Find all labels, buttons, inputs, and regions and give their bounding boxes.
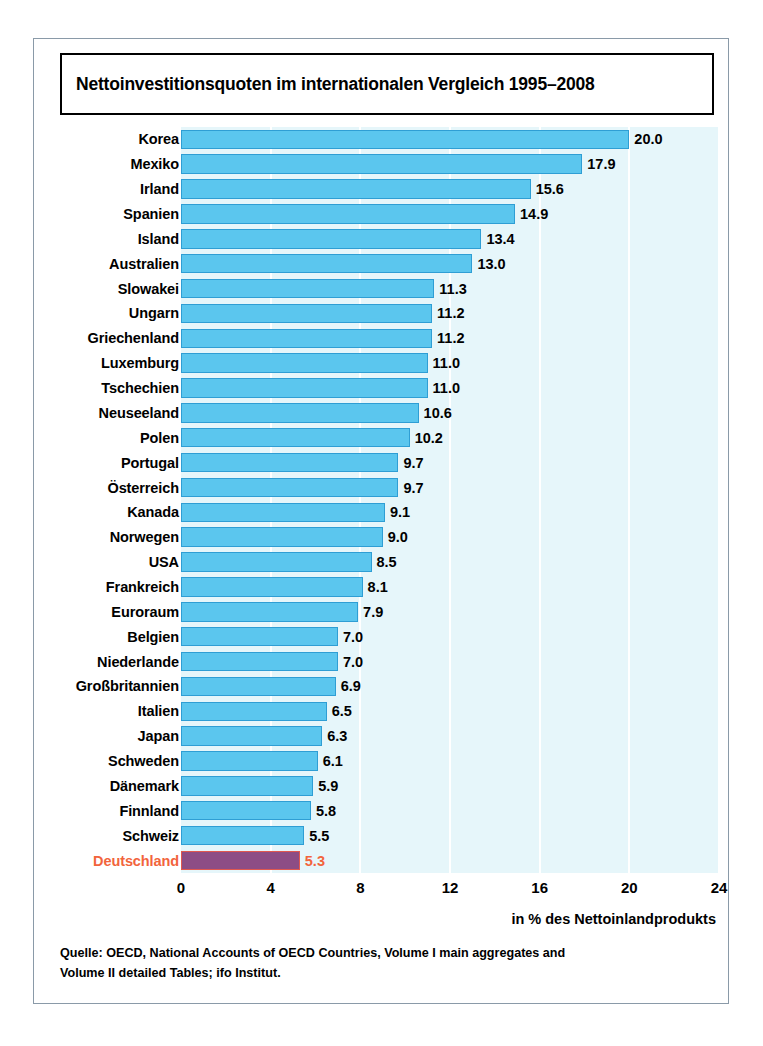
bar-row: Neuseeland10.6 (34, 401, 730, 426)
bar (181, 577, 363, 597)
bar-category-label: Spanien (123, 206, 179, 222)
bar-category-label: Irland (140, 181, 179, 197)
source-note: Quelle: OECD, National Accounts of OECD … (60, 944, 700, 983)
bar-category-label: Euroraum (111, 604, 179, 620)
bar-row: Dänemark5.9 (34, 774, 730, 799)
bar (181, 726, 322, 746)
bar-row: Kanada9.1 (34, 500, 730, 525)
bar-value-label: 9.7 (403, 480, 423, 496)
chart-region: Korea20.0Mexiko17.9Irland15.6Spanien14.9… (34, 127, 730, 917)
bar-category-label: Großbritannien (76, 678, 179, 694)
bar-value-label: 7.0 (343, 654, 363, 670)
bar-category-label: Mexiko (130, 156, 179, 172)
x-axis-tick-label: 20 (621, 879, 638, 896)
bar-category-label: Kanada (127, 504, 179, 520)
bar-value-label: 6.5 (332, 703, 352, 719)
bar-value-label: 11.2 (437, 330, 464, 346)
bar-value-label: 10.2 (415, 430, 443, 446)
bar-row: Großbritannien6.9 (34, 674, 730, 699)
bar-value-label: 5.5 (309, 828, 329, 844)
bar-rows: Korea20.0Mexiko17.9Irland15.6Spanien14.9… (34, 127, 730, 873)
bar-value-label: 17.9 (587, 156, 615, 172)
bar (181, 503, 385, 523)
bar-row: Luxemburg11.0 (34, 351, 730, 376)
bar-category-label: Italien (138, 703, 179, 719)
bar (181, 353, 428, 373)
x-axis-caption: in % des Nettoinlandprodukts (511, 911, 716, 927)
bar-category-label: USA (149, 554, 179, 570)
bar-row: Tschechien11.0 (34, 376, 730, 401)
bar-row: Island13.4 (34, 226, 730, 251)
bar (181, 527, 383, 547)
bar-category-label: Frankreich (106, 579, 179, 595)
bar-category-label: Australien (109, 256, 179, 272)
bar-row: Schweiz5.5 (34, 823, 730, 848)
bar-category-label: Dänemark (110, 778, 179, 794)
bar-row: Belgien7.0 (34, 624, 730, 649)
bar-row: Australien13.0 (34, 251, 730, 276)
x-axis-tick-label: 4 (266, 879, 274, 896)
bar (181, 677, 336, 697)
chart-title-box: Nettoinvestitionsquoten im international… (60, 53, 714, 115)
bar-category-label: Finnland (119, 803, 179, 819)
bar (181, 204, 515, 224)
bar-row: Österreich9.7 (34, 475, 730, 500)
bar-row: Finnland5.8 (34, 798, 730, 823)
x-axis-tick-label: 24 (711, 879, 728, 896)
bar-row: Portugal9.7 (34, 450, 730, 475)
figure-frame: Nettoinvestitionsquoten im international… (33, 38, 729, 1004)
bar (181, 776, 313, 796)
bar-row: Griechenland11.2 (34, 326, 730, 351)
bar-row: Spanien14.9 (34, 202, 730, 227)
x-axis-tick-label: 16 (531, 879, 548, 896)
bar-value-label: 7.9 (363, 604, 383, 620)
bar-category-label: Österreich (107, 480, 179, 496)
bar (181, 627, 338, 647)
source-note-line-1: Quelle: OECD, National Accounts of OECD … (60, 944, 700, 964)
x-axis-tick-label: 12 (442, 879, 459, 896)
bar-value-label: 6.9 (341, 678, 361, 694)
bar-row: Euroraum7.9 (34, 599, 730, 624)
bar-category-label: Neuseeland (99, 405, 179, 421)
bar-category-label: Ungarn (129, 305, 179, 321)
bar (181, 304, 432, 324)
bar-value-label: 11.0 (433, 380, 460, 396)
bar-value-label: 13.0 (477, 256, 505, 272)
bar (181, 453, 398, 473)
bar-value-label: 5.3 (305, 853, 325, 869)
bar-row: Ungarn11.2 (34, 301, 730, 326)
bar (181, 179, 531, 199)
bar-value-label: 14.9 (520, 206, 548, 222)
bar-value-label: 5.8 (316, 803, 336, 819)
page-title: Nettoinvestitionsquoten im international… (62, 74, 595, 95)
bar (181, 154, 582, 174)
bar-row: Frankreich8.1 (34, 575, 730, 600)
bar (181, 329, 432, 349)
bar-category-label: Korea (138, 131, 179, 147)
bar (181, 702, 327, 722)
bar-category-label: Schweden (108, 753, 179, 769)
bar-value-label: 13.4 (486, 231, 514, 247)
bar-value-label: 11.0 (433, 355, 460, 371)
bar-category-label: Belgien (127, 629, 179, 645)
bar-category-label: Slowakei (118, 281, 179, 297)
bar-category-label: Portugal (121, 455, 179, 471)
bar-row: Niederlande7.0 (34, 649, 730, 674)
bar (181, 428, 410, 448)
bar (181, 826, 304, 846)
bar-value-label: 9.7 (403, 455, 423, 471)
bar (181, 478, 398, 498)
bar-category-label: Luxemburg (101, 355, 179, 371)
bar-row: Deutschland5.3 (34, 848, 730, 873)
bar-category-label: Island (138, 231, 179, 247)
bar (181, 652, 338, 672)
bar (181, 229, 481, 249)
bar-value-label: 15.6 (536, 181, 564, 197)
bar-value-label: 6.3 (327, 728, 347, 744)
bar-category-label: Norwegen (110, 529, 179, 545)
bar-row: Japan6.3 (34, 724, 730, 749)
bar (181, 552, 372, 572)
bar-value-label: 11.3 (439, 281, 466, 297)
bar-value-label: 6.1 (323, 753, 343, 769)
bar-row: Mexiko17.9 (34, 152, 730, 177)
